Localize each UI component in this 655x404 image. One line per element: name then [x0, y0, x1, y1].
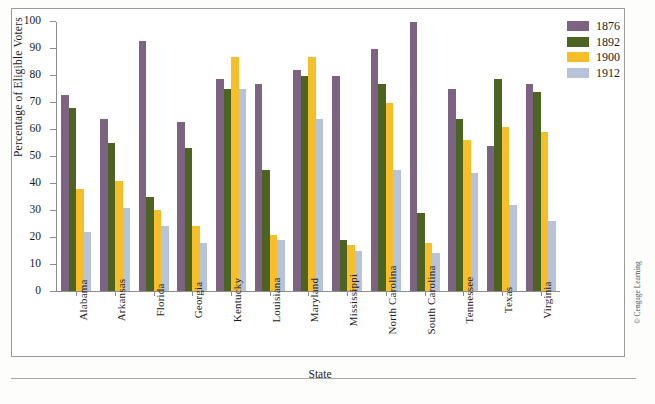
bar — [161, 226, 169, 291]
legend-label: 1912 — [596, 67, 620, 79]
x-axis-tick — [425, 291, 426, 296]
bar — [502, 127, 510, 291]
bar — [355, 251, 363, 291]
bar-set — [255, 22, 285, 291]
bar — [347, 245, 355, 291]
legend-label: 1900 — [596, 51, 620, 63]
bar-group: Alabama — [57, 22, 96, 291]
y-axis-tick: 60 — [50, 129, 56, 130]
x-axis-tick — [463, 291, 464, 296]
bar-group: Louisiana — [250, 22, 289, 291]
bar — [185, 148, 193, 291]
x-axis-tick — [541, 291, 542, 296]
y-axis-tick-label: 90 — [30, 42, 42, 54]
bar-group: Kentucky — [212, 22, 251, 291]
bar-set — [448, 22, 478, 291]
bar-set — [410, 22, 440, 291]
bar — [386, 103, 394, 291]
bar-set — [100, 22, 130, 291]
legend-item: 1900 — [567, 51, 620, 63]
x-axis-tick — [192, 291, 193, 296]
y-axis-tick-label: 10 — [30, 258, 42, 270]
bar-set — [139, 22, 169, 291]
y-axis-title: Percentage of Eligible Voters — [12, 17, 24, 157]
legend-item: 1912 — [567, 67, 620, 79]
y-axis-tick: 100 — [50, 21, 56, 22]
bar-set — [177, 22, 207, 291]
bar — [487, 146, 495, 291]
bar-group: North Carolina — [367, 22, 406, 291]
bar-group: Arkansas — [96, 22, 135, 291]
plot-area: 0102030405060708090100 AlabamaArkansasFl… — [56, 22, 560, 292]
chart-figure: Percentage of Eligible Voters 0102030405… — [0, 0, 655, 404]
copyright-credit: © Cengage Learning — [633, 261, 642, 324]
x-axis-tick — [154, 291, 155, 296]
bar — [139, 41, 147, 291]
y-axis-tick-label: 0 — [35, 285, 41, 297]
bar — [378, 84, 386, 291]
bar — [456, 119, 464, 291]
y-axis-tick-label: 100 — [24, 15, 41, 27]
bar-group: Florida — [134, 22, 173, 291]
bar-group: Tennessee — [444, 22, 483, 291]
bar-group: Mississippi — [328, 22, 367, 291]
bar — [293, 70, 301, 291]
bar-set — [332, 22, 362, 291]
bar — [146, 197, 154, 291]
x-axis-title: State — [0, 368, 640, 380]
y-axis-tick: 80 — [50, 75, 56, 76]
bar — [200, 243, 208, 291]
y-axis-tick: 50 — [50, 156, 56, 157]
bar — [463, 140, 471, 291]
bar — [277, 240, 285, 291]
bar — [69, 108, 77, 291]
x-axis-tick — [347, 291, 348, 296]
bar — [84, 232, 92, 291]
y-axis-tick: 10 — [50, 264, 56, 265]
chart-legend: 1876189219001912 — [567, 20, 620, 79]
x-axis-tick — [115, 291, 116, 296]
bar — [177, 122, 185, 291]
x-axis-tick — [308, 291, 309, 296]
bar-group: Texas — [483, 22, 522, 291]
y-axis-tick: 40 — [50, 183, 56, 184]
bar — [425, 243, 433, 291]
x-axis-tick — [502, 291, 503, 296]
y-axis-tick: 70 — [50, 102, 56, 103]
x-axis-tick — [76, 291, 77, 296]
bar — [192, 226, 200, 291]
bar — [255, 84, 263, 291]
bar — [448, 89, 456, 291]
bar — [216, 79, 224, 292]
bar — [123, 208, 131, 291]
bar — [100, 119, 108, 291]
bar — [332, 76, 340, 291]
bar — [316, 119, 324, 291]
y-axis-tick-label: 50 — [30, 150, 42, 162]
y-axis-tick-label: 70 — [30, 96, 42, 108]
legend-swatch — [567, 21, 589, 31]
bar-set — [526, 22, 556, 291]
bar-groups: AlabamaArkansasFloridaGeorgiaKentuckyLou… — [57, 22, 560, 291]
y-axis-tick: 0 — [50, 291, 56, 292]
bar — [231, 57, 239, 291]
bar — [509, 205, 517, 291]
legend-swatch — [567, 37, 589, 47]
bar-set — [61, 22, 91, 291]
bar — [270, 235, 278, 291]
bar — [526, 84, 534, 291]
bar — [371, 49, 379, 291]
bar — [115, 181, 123, 291]
bar — [76, 189, 84, 291]
bar-group: Georgia — [173, 22, 212, 291]
legend-item: 1892 — [567, 36, 620, 48]
bar — [410, 22, 418, 291]
bar — [432, 253, 440, 291]
y-axis-tick-label: 30 — [30, 204, 42, 216]
bar-group: Maryland — [289, 22, 328, 291]
bar — [239, 89, 247, 291]
bar — [417, 213, 425, 291]
legend-swatch — [567, 68, 589, 78]
y-axis-tick-label: 20 — [30, 231, 42, 243]
bar — [224, 89, 232, 291]
